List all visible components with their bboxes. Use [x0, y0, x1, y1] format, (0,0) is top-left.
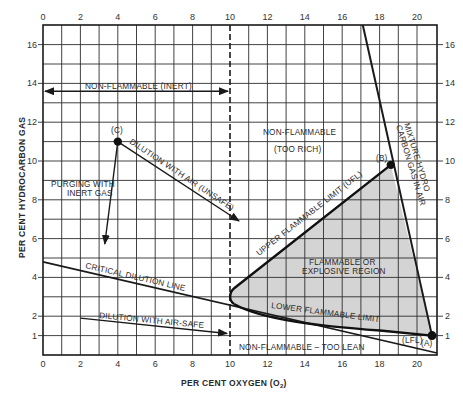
tick-label: 14: [300, 359, 310, 369]
point-b-marker: [387, 161, 395, 169]
tick-label: 1: [445, 331, 450, 341]
purging-label-line2: INERT GAS: [67, 189, 113, 198]
tick-label: 20: [412, 12, 422, 22]
tick-label: 16: [445, 40, 455, 50]
point-c-marker: [114, 137, 122, 145]
tick-label: 2: [78, 12, 83, 22]
tick-label: 4: [115, 12, 120, 22]
tick-label: 16: [337, 12, 347, 22]
flammability-diagram: 02468101214161820 02468101214161820 1246…: [0, 0, 463, 396]
top-axis-ticks: 02468101214161820: [40, 12, 422, 22]
tick-label: 4: [32, 272, 37, 282]
tick-label: 4: [445, 272, 450, 282]
too-rich-label-line1: NON-FLAMMABLE: [263, 128, 336, 137]
y-axis-title: PER CENT HYDROCARBON GAS: [17, 117, 27, 258]
tick-label: 10: [225, 359, 235, 369]
tick-label: 20: [412, 359, 422, 369]
too-lean-label: NON-FLAMMABLE – TOO LEAN: [239, 343, 365, 352]
lfl-short-label: (LFL): [402, 336, 423, 345]
point-b-label: (B): [376, 154, 388, 163]
tick-label: 8: [32, 195, 37, 205]
tick-label: 12: [262, 12, 272, 22]
tick-label: 10: [445, 156, 455, 166]
tick-label: 6: [32, 234, 37, 244]
tick-label: 0: [40, 12, 45, 22]
tick-label: 8: [190, 12, 195, 22]
purging-label-line1: PURGING WITH: [51, 180, 115, 189]
tick-label: 14: [27, 78, 37, 88]
bottom-axis-ticks: 02468101214161820: [40, 359, 422, 369]
tick-label: 18: [375, 12, 385, 22]
tick-label: 14: [300, 12, 310, 22]
tick-label: 18: [375, 359, 385, 369]
too-rich-label-line2: (TOO RICH): [274, 145, 321, 154]
tick-label: 14: [445, 78, 455, 88]
tick-label: 12: [262, 359, 272, 369]
unsafe-dilution-label: DILUTION WITH AIR (UNSAFE): [128, 137, 236, 212]
tick-label: 10: [225, 12, 235, 22]
left-axis-ticks: 1246810121416: [27, 40, 43, 341]
right-axis-ticks: 1246810121416: [437, 40, 455, 341]
tick-label: 6: [153, 12, 158, 22]
tick-label: 2: [78, 359, 83, 369]
tick-label: 16: [337, 359, 347, 369]
tick-label: 6: [153, 359, 158, 369]
tick-label: 2: [32, 311, 37, 321]
tick-label: 2: [445, 311, 450, 321]
safe-dilution-label: DILUTION WITH AIR-SAFE: [99, 311, 205, 330]
tick-label: 4: [115, 359, 120, 369]
tick-label: 8: [190, 359, 195, 369]
tick-label: 6: [445, 234, 450, 244]
unsafe-dilution-arrow: [118, 142, 239, 221]
inert-label: NON-FLAMMABLE (INERT): [85, 82, 192, 91]
tick-label: 0: [40, 359, 45, 369]
tick-label: 1: [32, 331, 37, 341]
tick-label: 10: [27, 156, 37, 166]
tick-label: 12: [445, 117, 455, 127]
tick-label: 8: [445, 195, 450, 205]
point-a-label: (A): [421, 339, 433, 348]
tick-label: 16: [27, 40, 37, 50]
flammable-region-label-line1: FLAMMABLE OR: [309, 258, 376, 267]
flammable-region-label-line2: EXPLOSIVE REGION: [302, 267, 386, 276]
tick-label: 12: [27, 117, 37, 127]
point-c-label: (C): [111, 126, 123, 135]
x-axis-title: PER CENT OXYGEN (O2): [181, 378, 287, 389]
